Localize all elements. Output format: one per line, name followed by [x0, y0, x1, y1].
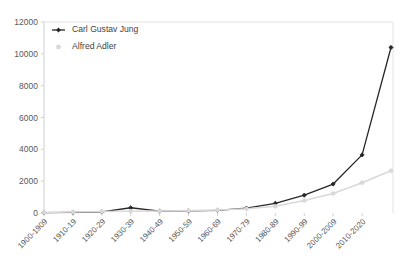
y-tick-label: 8000	[19, 81, 38, 91]
y-tick-label: 10000	[14, 49, 38, 59]
data-point-marker	[158, 209, 162, 213]
legend-item[interactable]: Carl Gustav Jung	[52, 24, 139, 34]
x-tick-label: 1910-19	[51, 217, 79, 245]
x-tick-group: 1900-19091910-191920-291930-391940-49195…	[16, 213, 368, 250]
data-point-marker	[389, 169, 393, 173]
data-point-marker	[187, 209, 191, 213]
data-point-marker	[331, 191, 335, 195]
series-line	[44, 47, 391, 212]
data-series-group	[42, 45, 393, 214]
series-jung	[42, 45, 393, 214]
x-tick-label: 1900-1909	[16, 217, 50, 251]
x-tick-label: 1990-99	[283, 217, 311, 245]
chart-svg: 020004000600080001000012000 1900-1909191…	[0, 0, 417, 271]
y-tick-label: 4000	[19, 144, 38, 154]
chart-legend: Carl Gustav JungAlfred Adler	[52, 24, 139, 51]
series-line	[44, 171, 391, 213]
y-axis: 020004000600080001000012000	[14, 17, 44, 218]
legend-label: Alfred Adler	[72, 41, 117, 51]
data-point-marker	[71, 210, 75, 214]
data-point-marker	[360, 181, 364, 185]
y-tick-label: 6000	[19, 113, 38, 123]
legend-marker-icon	[56, 45, 61, 50]
x-axis: 1900-19091910-191920-291930-391940-49195…	[16, 213, 368, 250]
x-tick-label: 1970-79	[225, 217, 253, 245]
x-tick-label: 1980-89	[254, 217, 282, 245]
legend-item[interactable]: Alfred Adler	[56, 41, 116, 51]
x-tick-label: 1930-39	[109, 217, 137, 245]
x-tick-label: 1960-69	[196, 217, 224, 245]
y-tick-label: 0	[33, 208, 38, 218]
data-point-marker	[100, 210, 104, 214]
data-point-marker	[389, 45, 393, 49]
legend-marker-icon	[56, 28, 61, 33]
data-point-marker	[302, 193, 306, 197]
y-tick-label: 12000	[14, 17, 38, 27]
x-tick-label: 1920-29	[80, 217, 108, 245]
data-point-marker	[273, 204, 277, 208]
x-tick-label: 2000-2009	[305, 217, 339, 251]
data-point-marker	[216, 208, 220, 212]
data-point-marker	[302, 199, 306, 203]
legend-label: Carl Gustav Jung	[72, 24, 139, 34]
x-tick-label: 1950-59	[167, 217, 195, 245]
x-tick-label: 2010-2020	[334, 217, 368, 251]
x-tick-label: 1940-49	[138, 217, 166, 245]
data-point-marker	[42, 211, 46, 215]
y-tick-label: 2000	[19, 176, 38, 186]
data-point-marker	[244, 207, 248, 211]
line-chart: 020004000600080001000012000 1900-1909191…	[0, 0, 417, 271]
y-tick-group: 020004000600080001000012000	[14, 17, 44, 218]
data-point-marker	[129, 209, 133, 213]
